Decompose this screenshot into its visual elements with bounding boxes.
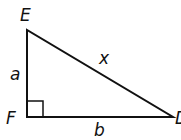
side-label-b: b xyxy=(94,120,105,140)
vertex-label-right: D xyxy=(175,108,181,128)
right-angle-marker xyxy=(27,101,43,117)
vertex-label-e: E xyxy=(20,5,31,25)
side-label-a: a xyxy=(10,64,20,84)
side-label-x: x xyxy=(98,48,110,68)
vertex-label-f: F xyxy=(6,108,16,128)
triangle-outline xyxy=(27,30,173,117)
triangle-diagram: E F D a b x xyxy=(0,0,181,140)
